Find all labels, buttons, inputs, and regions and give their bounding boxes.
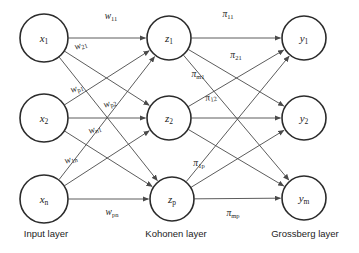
node-ym[interactable]: ym: [282, 176, 326, 220]
node-z2[interactable]: z2: [147, 96, 191, 140]
node-xn[interactable]: xn: [20, 175, 68, 223]
node-layer: x1x2xnz1z2zpy1y2ym: [20, 14, 326, 223]
node-y1[interactable]: y1: [282, 16, 326, 60]
connection-x1-to-z2: [65, 51, 150, 105]
node-y2[interactable]: y2: [282, 96, 326, 140]
layer-caption-layer: Input layerKohonen layerGrossberg layer: [24, 228, 339, 239]
connection-x2-to-zp: [65, 131, 152, 186]
weight-label-w11: w11: [105, 11, 118, 22]
node-zp[interactable]: zp: [150, 177, 194, 221]
diagram-canvas: x1x2xnz1z2zpy1y2ym w11w21wp1wp2wn1w1nwpn…: [0, 0, 359, 253]
weight-label-wpn: wpn: [106, 207, 120, 218]
weight-label-wp2: wp2: [102, 97, 117, 111]
layer-caption-kohonen: Kohonen layer: [145, 228, 206, 239]
weight-label-pi21: π21: [230, 50, 241, 61]
weight-label-pi1p: π1p: [193, 158, 204, 169]
weight-label-pimp: πmp: [226, 208, 239, 219]
connection-x2-to-z1: [65, 51, 150, 105]
weight-label-w21: w21: [73, 39, 88, 53]
weight-label-wn1: wn1: [87, 123, 102, 137]
network-diagram-svg: x1x2xnz1z2zpy1y2ym w11w21wp1wp2wn1w1nwpn…: [0, 0, 359, 253]
node-z1[interactable]: z1: [147, 16, 191, 60]
layer-caption-input: Input layer: [24, 228, 68, 239]
connection-zp-to-ym: [194, 198, 280, 199]
layer-caption-grossberg: Grossberg layer: [271, 228, 339, 239]
weight-label-pi11: π11: [222, 9, 233, 20]
node-x1[interactable]: x1: [20, 14, 68, 62]
node-x2[interactable]: x2: [20, 94, 68, 142]
weight-label-pim1: πm1: [191, 69, 204, 80]
